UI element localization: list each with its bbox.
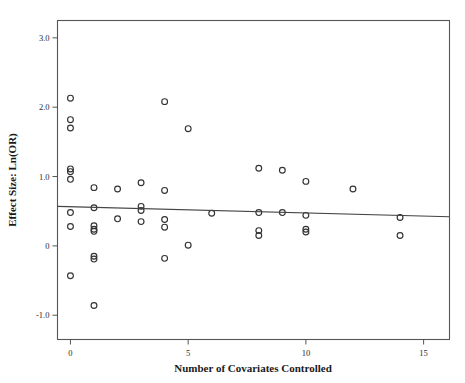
x-tick-label: 5 [186,348,190,358]
y-tick-label: 0 [45,241,49,251]
y-tick-label: 2.0 [39,102,50,112]
x-tick-label: 0 [68,348,72,358]
x-tick-label: 10 [302,348,311,358]
y-tick-label: 3.0 [39,33,50,43]
plot-canvas: 3.02.01.00-1.0 051015 Number of Covariat… [0,0,465,383]
y-axis-title: Effect Size: Ln(OR) [6,133,19,227]
x-tick-label: 15 [419,348,428,358]
plot-background [0,0,465,383]
y-tick-label: -1.0 [36,310,49,320]
x-axis-title: Number of Covariates Controlled [174,362,332,374]
y-tick-label: 1.0 [39,172,50,182]
scatter-plot-figure: 3.02.01.00-1.0 051015 Number of Covariat… [0,0,465,383]
